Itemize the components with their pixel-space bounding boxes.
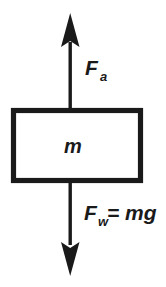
diagram-canvas: F a m F w = mg bbox=[0, 0, 166, 287]
applied-force-arrow bbox=[61, 13, 80, 110]
applied-force-label: F a bbox=[85, 56, 107, 84]
weight-force-expression: = mg bbox=[107, 201, 157, 224]
applied-force-arrowhead bbox=[61, 13, 80, 47]
free-body-diagram: F a m F w = mg bbox=[0, 0, 166, 287]
applied-force-subscript: a bbox=[100, 69, 107, 84]
applied-force-symbol: F bbox=[85, 56, 99, 79]
weight-force-arrowhead bbox=[61, 242, 80, 276]
mass-label: m bbox=[64, 135, 82, 157]
weight-force-arrow-shaft bbox=[69, 181, 72, 245]
applied-force-arrow-shaft bbox=[69, 42, 72, 110]
weight-force-arrow bbox=[61, 181, 80, 276]
weight-force-label: F w = mg bbox=[84, 201, 157, 229]
weight-force-symbol: F bbox=[84, 201, 98, 224]
